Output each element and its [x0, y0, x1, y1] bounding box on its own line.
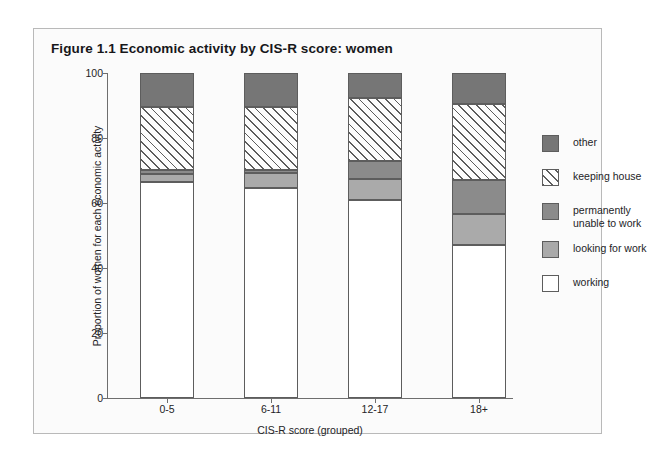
bar-segment-working[interactable]: [244, 188, 298, 398]
legend-swatch-looking-for-work-icon: [542, 241, 559, 258]
bar-segment-permanently-unable-to-work[interactable]: [452, 180, 506, 214]
chart-title: Figure 1.1 Economic activity by CIS-R sc…: [51, 41, 393, 56]
legend-swatch-keeping-house-icon: [542, 169, 559, 186]
legend-item-other[interactable]: other: [542, 135, 651, 157]
bar-segment-working[interactable]: [140, 182, 194, 398]
bar-segment-looking-for-work[interactable]: [244, 173, 298, 188]
y-tick-mark-0: [103, 398, 107, 399]
bar-segment-keeping-house[interactable]: [140, 107, 194, 170]
y-tick-mark-100: [103, 73, 107, 74]
bar-segment-other[interactable]: [244, 73, 298, 107]
y-tick-mark-60: [103, 203, 107, 204]
y-tick-mark-40: [103, 268, 107, 269]
bar-segment-looking-for-work[interactable]: [452, 214, 506, 245]
bar-segment-other[interactable]: [140, 73, 194, 107]
bar-segment-permanently-unable-to-work[interactable]: [140, 170, 194, 174]
legend-label-keeping-house: keeping house: [573, 169, 651, 183]
bar-segment-keeping-house[interactable]: [244, 107, 298, 169]
bar-segment-looking-for-work[interactable]: [348, 179, 402, 200]
y-tick-mark-20: [103, 333, 107, 334]
bar-segment-working[interactable]: [348, 200, 402, 398]
y-axis-line: [107, 73, 108, 399]
bar-segment-keeping-house[interactable]: [348, 98, 402, 161]
bar-segment-other[interactable]: [348, 73, 402, 98]
figure-panel: Figure 1.1 Economic activity by CIS-R sc…: [33, 28, 602, 434]
legend-label-looking-for-work: looking for work: [573, 241, 651, 255]
x-tick-label-6-11: 6-11: [261, 403, 281, 415]
legend-label-working: working: [573, 275, 651, 289]
y-tick-label-100: 100: [57, 67, 103, 79]
bar-segment-keeping-house[interactable]: [452, 104, 506, 180]
plot-area: 100 80 60 40 20 0 Proportion of women fo…: [107, 73, 513, 398]
x-tick-label-12-17: 12-17: [362, 403, 389, 415]
bar-group-18-plus[interactable]: [452, 73, 506, 398]
legend-swatch-permanently-unable-to-work-icon: [542, 203, 559, 220]
legend-label-permanently-unable-to-work: permanently unable to work: [573, 203, 651, 229]
legend-item-keeping-house[interactable]: keeping house: [542, 169, 651, 191]
bar-segment-permanently-unable-to-work[interactable]: [348, 161, 402, 179]
bar-segment-other[interactable]: [452, 73, 506, 104]
legend-swatch-other-icon: [542, 135, 559, 152]
bar-segment-permanently-unable-to-work[interactable]: [244, 170, 298, 174]
y-tick-mark-80: [103, 138, 107, 139]
x-tick-label-18-plus: 18+: [470, 403, 488, 415]
y-axis-title: Proportion of women for each economic ac…: [91, 236, 103, 457]
bar-group-12-17[interactable]: [348, 73, 402, 398]
legend-label-other: other: [573, 135, 651, 149]
bar-segment-working[interactable]: [452, 245, 506, 398]
x-axis-title: CIS-R score (grouped): [107, 424, 513, 436]
legend-item-looking-for-work[interactable]: looking for work: [542, 241, 651, 263]
legend-swatch-working-icon: [542, 275, 559, 292]
legend: other keeping house permanently unable t…: [542, 135, 651, 309]
legend-item-permanently-unable-to-work[interactable]: permanently unable to work: [542, 203, 651, 229]
legend-item-working[interactable]: working: [542, 275, 651, 297]
bar-segment-looking-for-work[interactable]: [140, 174, 194, 182]
bar-group-6-11[interactable]: [244, 73, 298, 398]
x-tick-label-0-5: 0-5: [159, 403, 174, 415]
bar-group-0-5[interactable]: [140, 73, 194, 398]
